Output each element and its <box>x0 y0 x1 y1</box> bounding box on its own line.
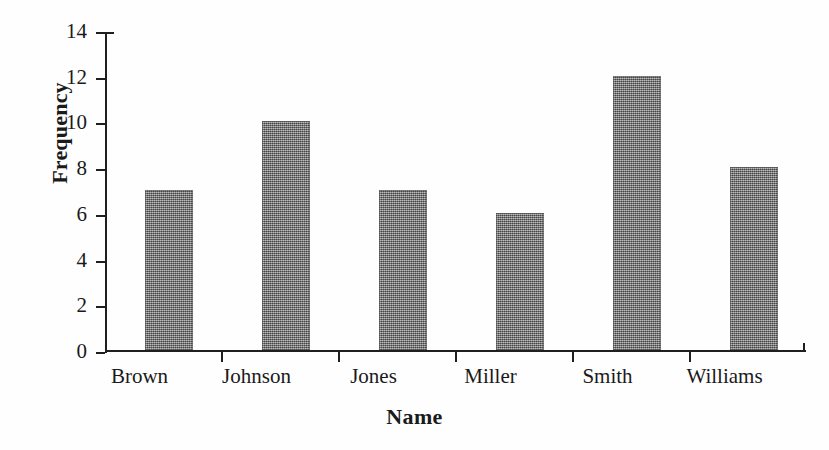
bar-williams <box>730 167 778 350</box>
y-axis-top-cap <box>105 32 114 34</box>
x-tick-label-smith: Smith <box>549 364 666 388</box>
x-tick-sep-3 <box>455 352 457 362</box>
y-tick-0: 0 <box>96 352 105 354</box>
x-tick-sep-2 <box>338 352 340 362</box>
bar-jones <box>379 190 427 350</box>
y-tick-2: 2 <box>96 306 105 308</box>
y-tick-4: 4 <box>96 261 105 263</box>
x-tick-sep-1 <box>221 352 223 362</box>
y-tick-label-6: 6 <box>43 202 87 226</box>
y-tick-label-0: 0 <box>43 339 87 363</box>
bar-smith <box>613 76 661 350</box>
x-tick-label-jones: Jones <box>315 364 432 388</box>
y-tick-14: 14 <box>96 32 105 34</box>
y-tick-10: 10 <box>96 123 105 125</box>
x-tick-sep-5 <box>689 352 691 362</box>
y-tick-label-10: 10 <box>43 110 87 134</box>
y-tick-label-2: 2 <box>43 293 87 317</box>
x-tick-label-williams: Williams <box>666 364 783 388</box>
plot-area: 14 12 10 8 6 4 2 0 <box>105 32 805 352</box>
bar-chart: Frequency 14 12 10 8 6 4 2 0 <box>0 0 829 450</box>
y-tick-8: 8 <box>96 169 105 171</box>
y-tick-label-12: 12 <box>43 65 87 89</box>
x-tick-sep-4 <box>572 352 574 362</box>
y-tick-label-8: 8 <box>43 156 87 180</box>
y-tick-label-14: 14 <box>43 19 87 43</box>
y-tick-6: 6 <box>96 215 105 217</box>
x-axis-title: Name <box>0 404 829 430</box>
y-axis-line <box>105 32 107 353</box>
y-tick-12: 12 <box>96 78 105 80</box>
bar-brown <box>145 190 193 350</box>
bar-miller <box>496 213 544 350</box>
y-tick-label-4: 4 <box>43 248 87 272</box>
x-axis-right-cap <box>803 343 805 352</box>
x-tick-label-brown: Brown <box>81 364 198 388</box>
bar-johnson <box>262 121 310 350</box>
x-tick-label-johnson: Johnson <box>198 364 315 388</box>
x-tick-label-miller: Miller <box>432 364 549 388</box>
